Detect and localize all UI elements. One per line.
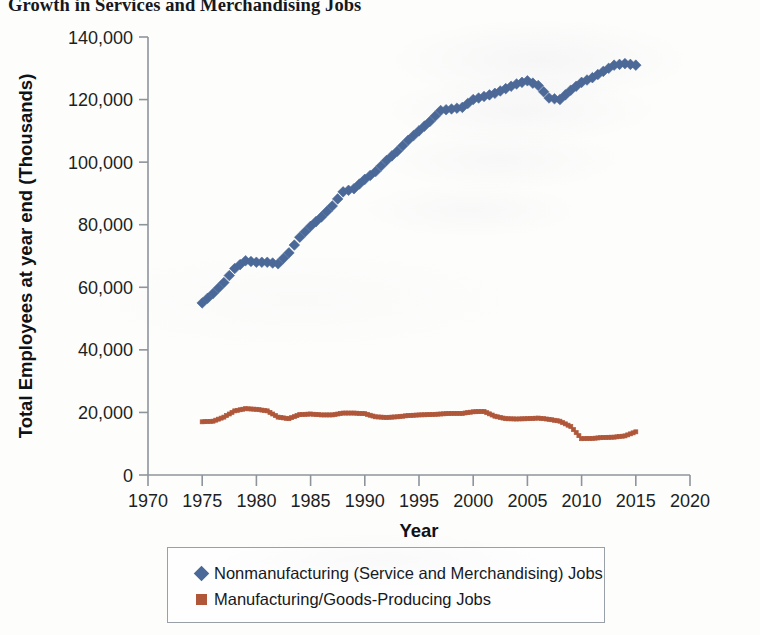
legend-item-manufacturing[interactable]: Manufacturing/Goods-Producing Jobs: [188, 586, 604, 612]
x-axis-tick-label: 1975: [182, 491, 222, 511]
chart-page: Growth in Services and Merchandising Job…: [0, 0, 760, 635]
y-axis-tick-label: 140,000: [68, 28, 133, 48]
chart-plot-area: 020,00040,00060,00080,000100,000120,0001…: [0, 0, 760, 635]
x-axis-tick-label: 2010: [562, 491, 602, 511]
x-axis-tick-label: 1990: [345, 491, 385, 511]
chart-legend: Nonmanufacturing (Service and Merchandis…: [167, 547, 605, 623]
y-axis-tick-label: 40,000: [78, 340, 133, 360]
x-axis-tick-label: 2020: [670, 491, 710, 511]
x-axis-tick-label: 2015: [616, 491, 656, 511]
legend-label-manufacturing: Manufacturing/Goods-Producing Jobs: [214, 590, 491, 609]
data-series-layer: [197, 58, 641, 440]
x-axis: 1970197519801985199019952000200520102015…: [128, 475, 710, 511]
legend-square-marker-icon: [188, 594, 214, 605]
y-axis: 020,00040,00060,00080,000100,000120,0001…: [68, 28, 148, 486]
series-nonmanufacturing: [197, 58, 641, 308]
x-axis-title: Year: [399, 520, 438, 541]
axis-titles: YearTotal Employees at year end (Thousan…: [15, 74, 439, 541]
legend-diamond-marker-icon: [188, 568, 214, 579]
x-axis-tick-label: 1970: [128, 491, 168, 511]
legend-item-nonmanufacturing[interactable]: Nonmanufacturing (Service and Merchandis…: [188, 560, 604, 586]
y-axis-tick-label: 20,000: [78, 403, 133, 423]
x-axis-tick-label: 2005: [507, 491, 547, 511]
legend-label-nonmanufacturing: Nonmanufacturing (Service and Merchandis…: [214, 564, 603, 583]
x-axis-tick-label: 1985: [291, 491, 331, 511]
y-axis-tick-label: 60,000: [78, 278, 133, 298]
y-axis-tick-label: 100,000: [68, 153, 133, 173]
x-axis-tick-label: 2000: [453, 491, 493, 511]
series-manufacturing: [200, 407, 638, 441]
y-axis-tick-label: 80,000: [78, 215, 133, 235]
y-axis-title: Total Employees at year end (Thousands): [15, 74, 36, 439]
y-axis-tick-label: 0: [123, 466, 133, 486]
y-axis-tick-label: 120,000: [68, 90, 133, 110]
x-axis-tick-label: 1995: [399, 491, 439, 511]
x-axis-tick-label: 1980: [236, 491, 276, 511]
